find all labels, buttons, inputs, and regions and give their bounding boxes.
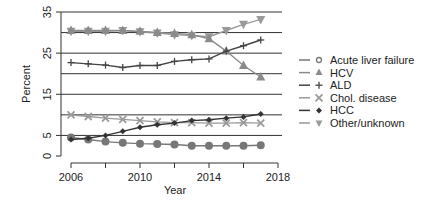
plus-marker bbox=[68, 59, 75, 66]
diamond-marker bbox=[120, 128, 126, 134]
circle-marker bbox=[188, 142, 196, 150]
series-line bbox=[71, 137, 261, 145]
x-axis: 2006201020142018 bbox=[59, 163, 290, 183]
plus-marker bbox=[257, 36, 264, 43]
legend-item: Chol. disease bbox=[299, 92, 397, 104]
circle-marker bbox=[136, 140, 144, 148]
series-hcc bbox=[68, 111, 264, 143]
circle-marker bbox=[257, 141, 265, 149]
legend: Acute liver failureHCVALDChol. diseaseHC… bbox=[299, 54, 414, 129]
plus-marker bbox=[85, 60, 92, 67]
diamond-marker bbox=[103, 132, 109, 138]
x-tick-label: 2010 bbox=[128, 171, 152, 183]
plus-marker bbox=[240, 42, 247, 49]
series-ald bbox=[68, 36, 265, 71]
triangle-down-marker bbox=[316, 121, 323, 128]
circle-marker bbox=[222, 142, 230, 150]
circle-marker bbox=[171, 140, 179, 148]
plus-marker bbox=[154, 62, 161, 69]
y-tick-label: 25 bbox=[41, 47, 53, 59]
plus-marker bbox=[102, 62, 109, 69]
legend-item: Acute liver failure bbox=[299, 54, 414, 66]
y-tick-label: 15 bbox=[41, 88, 53, 100]
x-tick-label: 2006 bbox=[59, 171, 83, 183]
y-tick-label: 35 bbox=[41, 6, 53, 18]
circle-marker bbox=[205, 142, 213, 150]
diamond-marker bbox=[258, 111, 264, 117]
x-marker bbox=[316, 94, 323, 101]
y-axis-title: Percent bbox=[20, 65, 32, 103]
circle-icon bbox=[317, 58, 322, 63]
series-line bbox=[71, 31, 261, 77]
series-line bbox=[71, 115, 261, 123]
line-chart: 05152535 2006201020142018 Acute liver fa… bbox=[0, 0, 430, 202]
plus-marker bbox=[188, 56, 195, 63]
y-axis: 05152535 bbox=[41, 6, 61, 159]
y-tick-label: 5 bbox=[41, 132, 53, 138]
series-line bbox=[71, 19, 261, 36]
legend-item: HCC bbox=[299, 104, 354, 116]
circle-marker bbox=[119, 139, 127, 147]
plus-marker bbox=[119, 64, 126, 71]
plus-marker bbox=[171, 58, 178, 65]
plus-marker bbox=[206, 55, 213, 62]
data-series bbox=[67, 16, 266, 150]
x-axis-title: Year bbox=[164, 184, 187, 196]
triangle-up-marker bbox=[316, 69, 323, 76]
triangle-up-marker bbox=[118, 26, 127, 35]
plus-marker bbox=[316, 82, 323, 89]
legend-item: HCV bbox=[299, 67, 354, 79]
legend-label: Chol. disease bbox=[330, 92, 397, 104]
legend-label: ALD bbox=[330, 79, 351, 91]
x-tick-label: 2018 bbox=[266, 171, 290, 183]
diamond-marker bbox=[137, 124, 143, 130]
legend-label: HCV bbox=[330, 67, 354, 79]
circle-marker bbox=[240, 142, 248, 150]
plus-marker bbox=[137, 62, 144, 69]
legend-label: Acute liver failure bbox=[330, 54, 414, 66]
circle-marker bbox=[153, 140, 161, 148]
series-line bbox=[71, 40, 261, 68]
y-tick-label: 0 bbox=[41, 153, 53, 159]
triangle-up-marker bbox=[239, 60, 248, 69]
series-other-unknown bbox=[67, 16, 266, 42]
legend-item: ALD bbox=[299, 79, 351, 91]
diamond-marker bbox=[316, 107, 322, 113]
x-tick-label: 2014 bbox=[197, 171, 221, 183]
circle-marker bbox=[102, 138, 110, 146]
legend-item: Other/unknown bbox=[299, 117, 405, 129]
legend-label: Other/unknown bbox=[330, 117, 405, 129]
legend-label: HCC bbox=[330, 104, 354, 116]
